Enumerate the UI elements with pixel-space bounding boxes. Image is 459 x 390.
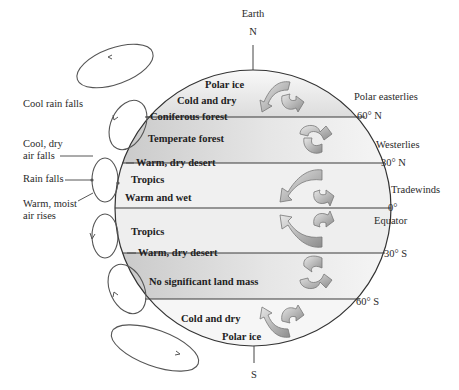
label-equator: Equator [374, 215, 408, 226]
wind-polar-easterlies: Polar easterlies [354, 91, 418, 102]
lat-label-30s: 30° S [384, 248, 407, 259]
south-pole-label: S [251, 369, 257, 380]
zone-temperate-forest: Temperate forest [148, 133, 225, 144]
label-cool-dry-1: Cool, dry [23, 138, 63, 149]
zone-south-cold-dry: Cold and dry [181, 313, 241, 324]
north-pole-label: N [249, 26, 257, 37]
leader-warm-moist [78, 193, 93, 201]
zone-coniferous-forest: Coniferous forest [150, 111, 228, 122]
lat-label-60n: 60° N [357, 110, 382, 121]
arrow-icon [113, 292, 118, 297]
zone-no-land-mass: No significant land mass [149, 276, 258, 287]
arrow-icon [90, 178, 93, 181]
band-north-polar [110, 60, 400, 117]
label-cool-dry-2: air falls [23, 150, 55, 161]
zone-south-polar-ice: Polar ice [222, 331, 262, 342]
arrow-icon [108, 55, 112, 59]
atmospheric-circulation-diagram: Earth N S Polar ice Cold and dry Conifer… [0, 0, 459, 390]
zone-north-desert: Warm, dry desert [136, 157, 216, 168]
cell-south-hadley [92, 214, 118, 258]
label-warm-moist-2: air rises [23, 210, 56, 221]
wind-tradewinds: Tradewinds [391, 184, 440, 195]
zone-south-tropics: Tropics [131, 226, 164, 237]
label-warm-moist-1: Warm, moist [23, 198, 77, 209]
zone-north-tropics: Tropics [131, 174, 164, 185]
label-cool-rain-falls: Cool rain falls [23, 98, 83, 109]
zone-south-desert: Warm, dry desert [138, 247, 218, 258]
lat-label-30n: 30° N [381, 157, 406, 168]
zone-north-cold-dry: Cold and dry [177, 95, 237, 106]
zone-north-polar-ice: Polar ice [205, 79, 245, 90]
lat-label-equator: 0° [388, 202, 397, 213]
wind-westerlies: Westerlies [376, 139, 419, 150]
label-rain-falls: Rain falls [23, 173, 64, 184]
arrow-icon [175, 351, 180, 355]
lat-label-60s: 60° S [356, 296, 379, 307]
cell-north-polar [71, 35, 158, 96]
arrow-icon [116, 181, 119, 184]
zone-warm-wet: Warm and wet [125, 192, 192, 203]
cell-north-hadley [92, 158, 118, 202]
globe [110, 60, 400, 359]
title-earth: Earth [242, 8, 265, 19]
